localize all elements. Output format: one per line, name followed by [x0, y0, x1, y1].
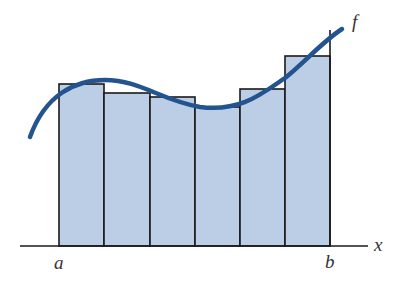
label-x-axis: x [374, 234, 382, 256]
rectangle-1 [59, 84, 104, 246]
rectangle-4 [195, 107, 240, 246]
rectangle-3 [150, 97, 195, 246]
rectangles-group [59, 56, 330, 246]
rectangle-5 [240, 89, 285, 246]
riemann-sum-diagram [0, 0, 404, 293]
label-function-f: f [352, 11, 357, 33]
label-b: b [325, 251, 335, 273]
rectangle-6 [285, 56, 330, 246]
label-a: a [54, 252, 64, 274]
rectangle-2 [104, 93, 150, 246]
